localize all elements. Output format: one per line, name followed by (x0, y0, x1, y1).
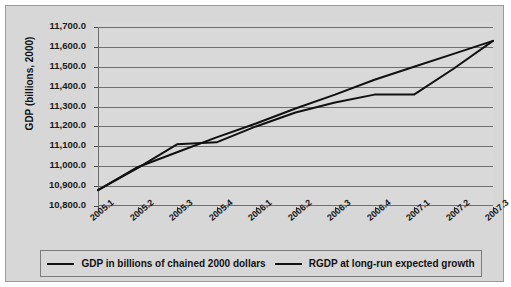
legend-line-icon (47, 263, 74, 265)
y-axis-label: 11,300.0 (26, 101, 86, 111)
y-axis-label: 11,000.0 (26, 160, 86, 170)
legend-item-rgdp-trend: RGDP at long-run expected growth (275, 258, 475, 269)
y-axis-label: 11,600.0 (26, 41, 86, 51)
legend-item-gdp-actual: GDP in billions of chained 2000 dollars (47, 258, 265, 269)
y-axis-label: 11,500.0 (26, 61, 86, 71)
legend-label: GDP in billions of chained 2000 dollars (81, 258, 265, 269)
y-axis-label: 11,100.0 (26, 140, 86, 150)
y-axis-label: 10,900.0 (26, 180, 86, 190)
chart-screenshot: · · · GDP (billions, 2000) 10,800.010,90… (0, 0, 511, 287)
y-axis-label: 11,700.0 (26, 21, 86, 31)
y-axis-label: 10,800.0 (26, 200, 86, 210)
plot-axes (98, 27, 493, 206)
chart-legend: GDP in billions of chained 2000 dollars … (40, 250, 482, 277)
chart-frame: GDP (billions, 2000) 10,800.010,900.011,… (5, 5, 504, 282)
legend-label: RGDP at long-run expected growth (309, 258, 475, 269)
y-axis-label: 11,400.0 (26, 81, 86, 91)
y-axis-label: 11,200.0 (26, 120, 86, 130)
legend-line-icon (275, 263, 302, 265)
